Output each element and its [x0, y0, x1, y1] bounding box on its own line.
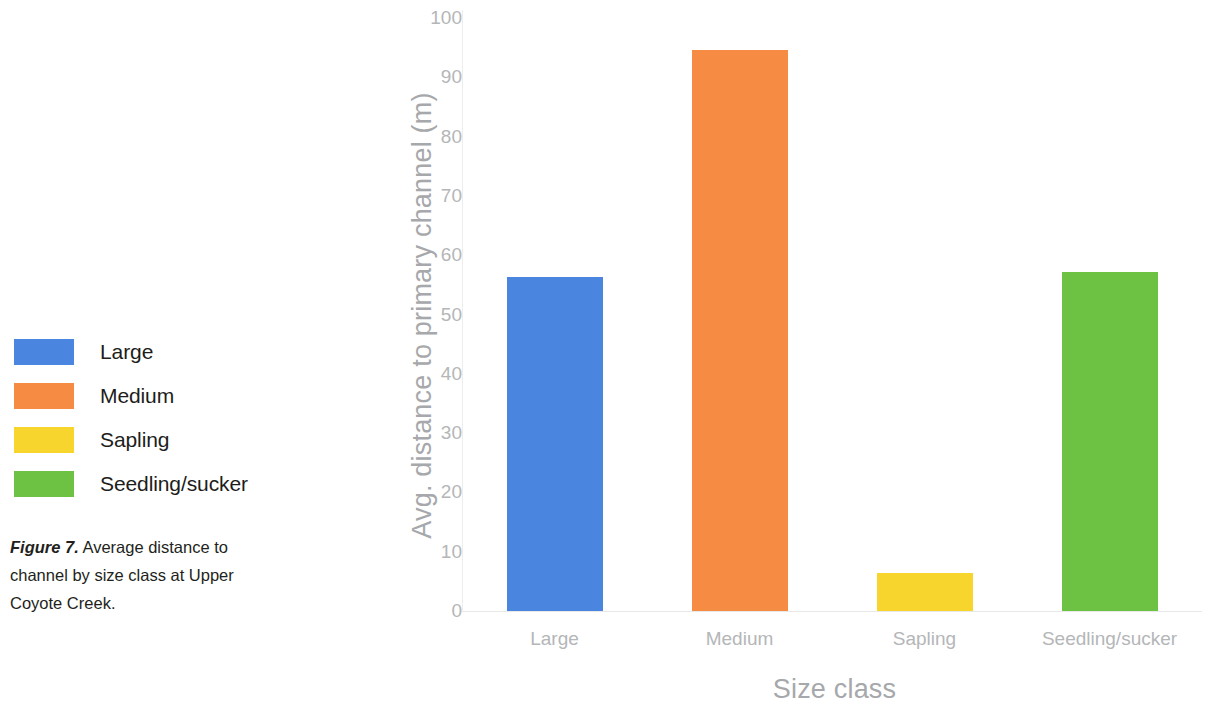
x-axis-title: Size class: [462, 674, 1207, 705]
y-axis-tick-50: 50: [400, 304, 462, 326]
figure-caption-label: Figure 7.: [10, 538, 79, 556]
legend-item-sapling: Sapling: [14, 418, 314, 462]
bar-large[interactable]: [507, 277, 603, 611]
legend-item-seedling-sucker: Seedling/sucker: [14, 462, 314, 506]
legend-label-sapling: Sapling: [100, 428, 169, 452]
y-axis-tick-0: 0: [400, 600, 462, 622]
y-axis-tick-40: 40: [400, 363, 462, 385]
y-axis-tick-90: 90: [400, 66, 462, 88]
y-axis-tick-10: 10: [400, 541, 462, 563]
chart-legend: Large Medium Sapling Seedling/sucker: [14, 330, 314, 506]
legend-item-medium: Medium: [14, 374, 314, 418]
legend-label-seedling-sucker: Seedling/sucker: [100, 472, 248, 496]
bar-sapling[interactable]: [877, 573, 973, 611]
y-axis-tick-80: 80: [400, 126, 462, 148]
legend-swatch-seedling-sucker: [14, 471, 74, 497]
x-axis-line: [462, 611, 1202, 612]
y-axis-tick-100: 100: [400, 7, 462, 29]
legend-swatch-large: [14, 339, 74, 365]
y-axis-tick-20: 20: [400, 481, 462, 503]
x-axis-tick-large: Large: [530, 628, 579, 650]
legend-label-large: Large: [100, 340, 153, 364]
x-axis-tick-medium: Medium: [706, 628, 774, 650]
bar-medium[interactable]: [692, 50, 788, 611]
bar-seedling-sucker[interactable]: [1062, 272, 1158, 611]
y-axis-tick-30: 30: [400, 422, 462, 444]
x-axis-tick-labels: LargeMediumSaplingSeedling/sucker: [462, 628, 1207, 662]
y-axis-tick-70: 70: [400, 185, 462, 207]
x-axis-tick-seedling-sucker: Seedling/sucker: [1042, 628, 1177, 650]
plot-area: [462, 10, 1202, 612]
legend-item-large: Large: [14, 330, 314, 374]
legend-swatch-sapling: [14, 427, 74, 453]
legend-swatch-medium: [14, 383, 74, 409]
legend-label-medium: Medium: [100, 384, 174, 408]
y-axis-tick-labels: 0102030405060708090100: [400, 0, 462, 717]
bar-chart: Avg. distance to primary channel (m) 010…: [340, 0, 1227, 717]
y-axis-line: [462, 10, 463, 612]
figure-caption: Figure 7. Average distance to channel by…: [10, 533, 278, 617]
x-axis-tick-sapling: Sapling: [893, 628, 956, 650]
figure-side-panel: Large Medium Sapling Seedling/sucker Fig…: [0, 0, 340, 717]
y-axis-tick-60: 60: [400, 244, 462, 266]
